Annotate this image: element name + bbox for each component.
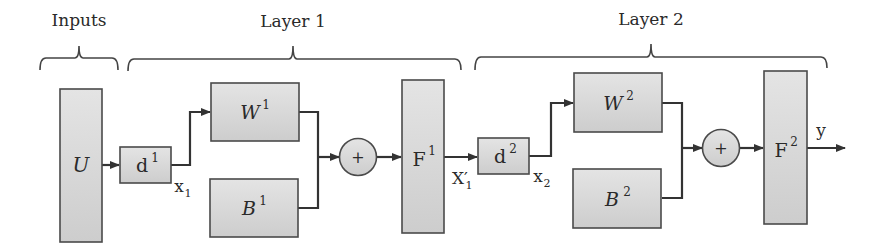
svg-text:+: + (714, 139, 727, 158)
svg-text:1: 1 (466, 179, 473, 192)
svg-text:2: 2 (790, 135, 798, 149)
node-sum1: + (340, 139, 377, 176)
svg-text:1: 1 (428, 144, 436, 158)
node-F2: F 2 (764, 71, 807, 224)
node-W2: W 2 (574, 73, 662, 132)
svg-text:F: F (774, 139, 787, 161)
svg-text:d: d (136, 154, 148, 176)
node-d2: d 2 (478, 138, 529, 174)
node-sum2: + (703, 130, 740, 167)
svg-text:2: 2 (623, 185, 631, 199)
svg-text:F: F (412, 148, 425, 170)
svg-text:2: 2 (544, 177, 551, 190)
edge-B1-sum (298, 157, 318, 208)
svg-text:x: x (533, 166, 543, 186)
edge-label-x2: x 2 (533, 166, 550, 190)
svg-text:d: d (494, 145, 506, 167)
group-label-layer1: Layer 1 (260, 11, 325, 31)
svg-text:B: B (241, 197, 256, 219)
svg-text:1: 1 (262, 98, 270, 112)
edge-d1-W1 (171, 112, 210, 165)
svg-text:U: U (73, 153, 91, 177)
svg-text:W: W (603, 92, 624, 114)
svg-text:x: x (174, 176, 184, 196)
node-B2: B 2 (573, 169, 661, 228)
svg-text:1: 1 (185, 187, 192, 200)
group-label-layer2: Layer 2 (618, 9, 683, 29)
brace-layer1 (128, 46, 461, 71)
svg-text:2: 2 (509, 142, 517, 156)
svg-text:1: 1 (151, 151, 159, 165)
svg-text:W: W (240, 101, 261, 123)
node-W1: W 1 (211, 83, 299, 141)
brace-inputs (40, 46, 118, 70)
neural-network-diagram: Inputs Layer 1 Layer 2 U d 1 W 1 B 1 + (0, 0, 883, 249)
edge-d2-W2 (529, 103, 573, 156)
node-U: U (60, 89, 102, 242)
brace-layer2 (475, 44, 827, 70)
node-F1: F 1 (402, 80, 444, 233)
group-label-inputs: Inputs (51, 10, 106, 30)
edge-W1-sum (299, 112, 318, 157)
edge-label-x1: x 1 (174, 176, 191, 200)
edge-B2-sum (662, 148, 682, 198)
node-B1: B 1 (210, 179, 298, 237)
edge-label-y: y (815, 120, 826, 140)
node-d1: d 1 (120, 147, 171, 183)
svg-text:+: + (351, 148, 364, 167)
svg-text:2: 2 (626, 89, 634, 103)
svg-text:B: B (604, 188, 619, 210)
edge-W2-sum (662, 103, 682, 148)
svg-text:1: 1 (259, 194, 267, 208)
edge-label-X1prime: X′ 1 (452, 168, 472, 192)
